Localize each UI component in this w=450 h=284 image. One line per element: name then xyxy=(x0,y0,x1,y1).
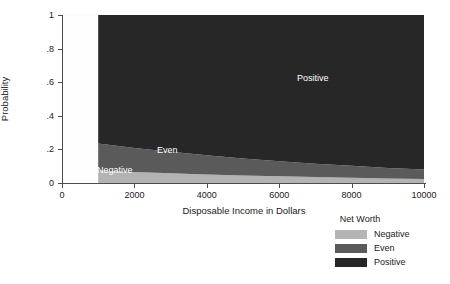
legend-label: Positive xyxy=(374,258,406,267)
x-tick-label: 2000 xyxy=(124,191,144,200)
y-tick-mark xyxy=(58,82,62,83)
y-tick-mark xyxy=(58,183,62,184)
y-tick-mark xyxy=(58,149,62,150)
area-band-positive xyxy=(98,15,424,170)
x-tick-label: 4000 xyxy=(197,191,217,200)
chart-figure: Positive Even Negative 02000400060008000… xyxy=(0,0,450,284)
x-tick-label: 8000 xyxy=(342,191,362,200)
y-tick-mark xyxy=(58,15,62,16)
x-tick-mark xyxy=(424,184,425,188)
x-tick-label: 6000 xyxy=(269,191,289,200)
legend-swatch xyxy=(335,258,367,267)
x-tick-mark xyxy=(134,184,135,188)
x-tick-label: 0 xyxy=(59,191,64,200)
plot-area xyxy=(62,15,424,183)
y-axis-title: Probability xyxy=(0,77,10,121)
x-tick-mark xyxy=(352,184,353,188)
legend-swatch xyxy=(335,244,367,253)
y-tick-label: 1 xyxy=(49,11,54,20)
y-tick-label: .8 xyxy=(46,44,54,53)
x-tick-label: 10000 xyxy=(411,191,436,200)
legend-item: Negative xyxy=(302,228,442,241)
y-tick-label: .2 xyxy=(46,145,54,154)
band-label-negative: Negative xyxy=(97,166,133,175)
y-tick-mark xyxy=(58,49,62,50)
legend-label: Even xyxy=(374,244,395,253)
y-tick-label: .6 xyxy=(46,78,54,87)
x-tick-mark xyxy=(279,184,280,188)
legend: Net Worth NegativeEvenPositive xyxy=(302,215,442,270)
band-label-even: Even xyxy=(157,146,178,155)
band-label-positive: Positive xyxy=(297,74,329,83)
y-tick-label: 0 xyxy=(49,179,54,188)
stacked-area-plot xyxy=(62,15,424,183)
x-tick-mark xyxy=(207,184,208,188)
legend-item: Positive xyxy=(302,256,442,269)
x-axis-line xyxy=(62,183,426,184)
y-tick-label: .4 xyxy=(46,111,54,120)
legend-label: Negative xyxy=(374,230,410,239)
y-tick-mark xyxy=(58,116,62,117)
legend-items: NegativeEvenPositive xyxy=(302,228,442,269)
y-axis-line xyxy=(62,15,63,184)
x-tick-mark xyxy=(62,184,63,188)
legend-title: Net Worth xyxy=(308,215,412,224)
legend-swatch xyxy=(335,230,367,239)
legend-item: Even xyxy=(302,242,442,255)
